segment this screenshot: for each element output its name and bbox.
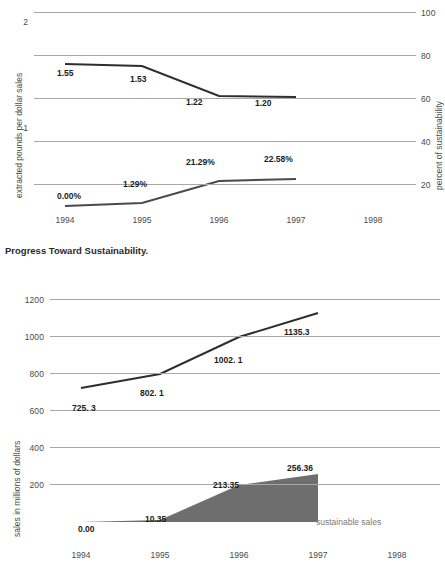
top-chart-left-axis-title: extracted pounds per dollar sales bbox=[14, 73, 24, 198]
top-chart: extracted pounds per dollar sales percen… bbox=[0, 0, 445, 235]
top-gridline-100 bbox=[34, 12, 416, 13]
top-label-sustainability-1997: 22.58% bbox=[264, 154, 293, 164]
top-gridline-40 bbox=[34, 141, 416, 142]
top-y2tick-60: 60 bbox=[421, 94, 431, 104]
bottom-gridline-1200 bbox=[50, 299, 440, 300]
bottom-gridline-400 bbox=[50, 447, 440, 448]
bottom-chart: sales in millions of dollars 1200 1000 8… bbox=[0, 285, 445, 575]
top-y2tick-20: 20 bbox=[421, 180, 431, 190]
top-ytick-1: 1 bbox=[8, 123, 28, 133]
bottom-chart-plot bbox=[50, 299, 440, 485]
bottom-ytick-1000: 1000 bbox=[14, 332, 44, 342]
bottom-ytick-800: 800 bbox=[14, 369, 44, 379]
bottom-xtick-1998: 1998 bbox=[376, 550, 418, 560]
bottom-ytick-400: 400 bbox=[14, 443, 44, 453]
bottom-label-sustainable-1995: 10.35 bbox=[145, 514, 166, 524]
bottom-xtick-1994: 1994 bbox=[60, 550, 102, 560]
top-label-extracted-1995: 1.53 bbox=[130, 74, 147, 84]
top-label-sustainability-1995: 1.29% bbox=[123, 179, 147, 189]
bottom-xtick-1995: 1995 bbox=[139, 550, 181, 560]
top-y2tick-100: 100 bbox=[421, 8, 435, 18]
top-xtick-1994: 1994 bbox=[44, 215, 86, 225]
top-y2tick-40: 40 bbox=[421, 137, 431, 147]
top-gridline-20 bbox=[34, 184, 416, 185]
bottom-gridline-800 bbox=[50, 373, 440, 374]
total-sales-line bbox=[81, 313, 318, 388]
figure-caption: Progress Toward Sustainability. bbox=[5, 245, 148, 256]
figure-page: extracted pounds per dollar sales percen… bbox=[0, 0, 445, 575]
top-gridline-80 bbox=[34, 55, 416, 56]
bottom-xtick-1997: 1997 bbox=[297, 550, 339, 560]
bottom-gridline-1000 bbox=[50, 336, 440, 337]
top-y2tick-80: 80 bbox=[421, 51, 431, 61]
bottom-label-sustainable-1997: 256.36 bbox=[287, 463, 313, 473]
bottom-ytick-200: 200 bbox=[14, 480, 44, 490]
top-chart-right-axis-title: percent of sustainability bbox=[434, 101, 444, 190]
top-label-sustainability-1994: 0.00% bbox=[57, 191, 81, 201]
bottom-label-total-1997: 1135.3 bbox=[284, 327, 310, 337]
bottom-ytick-600: 600 bbox=[14, 406, 44, 416]
top-xtick-1995: 1995 bbox=[121, 215, 163, 225]
top-xtick-1998: 1998 bbox=[352, 215, 394, 225]
top-xtick-1997: 1997 bbox=[275, 215, 317, 225]
top-chart-series-svg bbox=[34, 12, 416, 206]
top-label-extracted-1994: 1.55 bbox=[57, 68, 74, 78]
bottom-label-total-1994: 725. 3 bbox=[72, 403, 96, 413]
bottom-label-sustainable-1994: 0.00 bbox=[78, 524, 95, 534]
bottom-gridline-600 bbox=[50, 410, 440, 411]
bottom-label-total-1996: 1002. 1 bbox=[214, 355, 242, 365]
top-xtick-1996: 1996 bbox=[198, 215, 240, 225]
top-label-sustainability-1996: 21.29% bbox=[186, 157, 215, 167]
sustainable-sales-area bbox=[81, 474, 318, 522]
extracted-pounds-line bbox=[65, 64, 296, 97]
top-label-extracted-1996: 1.22 bbox=[186, 97, 203, 107]
top-chart-plot bbox=[34, 12, 416, 206]
bottom-gridline-200 bbox=[50, 484, 440, 485]
legend-sustainable-sales: sustainable sales bbox=[316, 517, 381, 527]
top-gridline-60 bbox=[34, 98, 416, 99]
bottom-xtick-1996: 1996 bbox=[218, 550, 260, 560]
bottom-ytick-1200: 1200 bbox=[14, 295, 44, 305]
top-ytick-2: 2 bbox=[8, 17, 28, 27]
top-label-extracted-1997: 1.20 bbox=[255, 98, 272, 108]
bottom-label-sustainable-1996: 213.35 bbox=[213, 480, 239, 490]
bottom-label-total-1995: 802. 1 bbox=[140, 388, 164, 398]
